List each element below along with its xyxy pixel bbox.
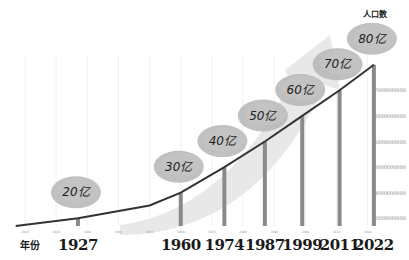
milestone-bubble: 30亿 [154, 151, 204, 183]
milestone-bar [338, 90, 342, 226]
milestone-bubble: 60亿 [275, 74, 325, 106]
x-tick-label: 2000 [302, 230, 310, 234]
milestone-bar [222, 167, 226, 226]
x-axis-label: 年份 [20, 239, 41, 251]
milestone-label: 30亿 [165, 160, 194, 174]
y-tick-label: 2000000000 [374, 215, 406, 221]
milestone-label: 70亿 [324, 57, 353, 71]
milestone-bar [263, 142, 267, 226]
y-tick-label: 7000000000 [374, 87, 406, 93]
y-tick-label: 4000000000 [374, 164, 406, 170]
y-tick-label: 6000000000 [374, 113, 406, 119]
milestone-label: 20亿 [62, 185, 91, 199]
x-tick-label: 1960 [177, 230, 185, 234]
x-tick-label: 2010 [333, 230, 341, 234]
x-axis-ticks: 1910192019301940195019601970198019902000… [21, 230, 371, 234]
milestone-year: 2022 [354, 236, 394, 254]
x-tick-label: 1910 [21, 230, 29, 234]
x-tick-label: 1980 [239, 230, 247, 234]
milestone-years: 1927196019741987199920112022 [58, 236, 394, 254]
milestone-label: 50亿 [249, 109, 278, 123]
population-chart: 20亿30亿40亿50亿60亿70亿80亿 191019201930194019… [0, 0, 409, 260]
milestone-bubble: 50亿 [238, 100, 288, 132]
milestone-year: 1960 [161, 236, 201, 254]
milestone-bubble: 40亿 [197, 125, 247, 157]
y-tick-label: 5000000000 [374, 139, 406, 145]
milestone-year: 1999 [282, 236, 322, 254]
milestone-bubble: 80亿 [347, 23, 397, 55]
x-tick-label: 2020 [364, 230, 372, 234]
milestone-label: 40亿 [209, 134, 238, 148]
x-tick-label: 1950 [146, 230, 154, 234]
x-tick-label: 1940 [115, 230, 123, 234]
x-tick-label: 1930 [83, 230, 91, 234]
y-axis-label: 人口数 [363, 9, 388, 19]
y-axis-ticks: 2000000000300000000040000000005000000000… [374, 87, 406, 221]
x-tick-label: 1970 [208, 230, 216, 234]
milestone-label: 60亿 [287, 83, 316, 97]
milestone-bar [179, 193, 183, 226]
milestone-bar [300, 116, 304, 226]
x-tick-label: 1920 [52, 230, 60, 234]
milestone-year: 1927 [58, 236, 98, 254]
milestone-bubble: 20亿 [51, 176, 101, 208]
milestone-label: 80亿 [358, 32, 387, 46]
milestone-year: 1974 [204, 236, 244, 254]
y-tick-label: 3000000000 [374, 190, 406, 196]
x-tick-label: 1990 [270, 230, 278, 234]
milestone-year: 1987 [245, 236, 285, 254]
milestone-bubble: 70亿 [313, 48, 363, 80]
